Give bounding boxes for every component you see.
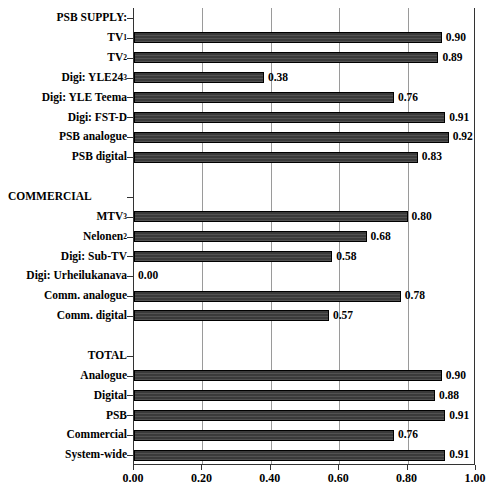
bar xyxy=(134,52,438,63)
y-axis-tick xyxy=(127,78,133,79)
horizontal-bar-chart: 0.900.890.380.760.910.920.830.800.680.58… xyxy=(0,0,489,499)
bar-value-label: 0.68 xyxy=(371,231,391,243)
y-axis-tick xyxy=(127,97,133,98)
bar-value-label: 0.00 xyxy=(138,270,158,282)
y-axis-tick xyxy=(127,237,133,238)
bar xyxy=(134,291,401,302)
bar xyxy=(134,112,445,123)
y-axis-tick xyxy=(127,38,133,39)
y-axis-tick xyxy=(127,296,133,297)
y-axis-tick xyxy=(127,415,133,416)
bar-row: 0.83 xyxy=(134,144,474,170)
bar-value-label: 0.91 xyxy=(449,449,469,461)
bar xyxy=(134,32,442,43)
bar xyxy=(134,211,408,222)
bar xyxy=(134,450,445,461)
category-label: Comm. digital xyxy=(57,303,127,329)
bar-value-label: 0.90 xyxy=(446,370,466,382)
y-axis-tick xyxy=(127,18,133,19)
x-axis-tick-label: 1.00 xyxy=(465,472,486,484)
y-axis-tick xyxy=(127,256,133,257)
bar xyxy=(134,152,418,163)
y-axis-tick xyxy=(127,197,133,198)
y-axis-tick xyxy=(127,376,133,377)
x-axis-tick-label: 0.00 xyxy=(123,472,144,484)
bar xyxy=(134,251,332,262)
y-axis-tick xyxy=(127,395,133,396)
bar xyxy=(134,370,442,381)
bar-value-label: 0.90 xyxy=(446,32,466,44)
y-axis-tick xyxy=(127,356,133,357)
bar-row: 0.91 xyxy=(134,442,474,468)
bar-value-label: 0.88 xyxy=(439,390,459,402)
x-axis-tick xyxy=(133,465,134,470)
x-axis-tick-label: 0.20 xyxy=(191,472,212,484)
x-axis-tick xyxy=(407,465,408,470)
x-axis-tick xyxy=(270,465,271,470)
y-axis-tick xyxy=(127,58,133,59)
bar-value-label: 0.91 xyxy=(449,112,469,124)
bar-value-label: 0.57 xyxy=(333,310,353,322)
bar xyxy=(134,132,449,143)
bar-row: 0.57 xyxy=(134,303,474,329)
bar xyxy=(134,410,445,421)
y-axis-tick xyxy=(127,316,133,317)
bar-value-label: 0.76 xyxy=(398,92,418,104)
y-axis-tick xyxy=(127,137,133,138)
bar-value-label: 0.91 xyxy=(449,410,469,422)
section-header-label: COMMERCIAL xyxy=(8,184,92,210)
bar-value-label: 0.92 xyxy=(453,131,473,143)
category-label: PSB digital xyxy=(72,144,127,170)
category-axis-labels: PSB SUPPLY:TV1TV2Digi: YLE243Digi: YLE T… xyxy=(0,8,133,465)
x-axis-tick-label: 0.40 xyxy=(259,472,280,484)
bar xyxy=(134,231,367,242)
bar-value-label: 0.80 xyxy=(412,211,432,223)
bar-value-label: 0.83 xyxy=(422,151,442,163)
bar xyxy=(134,430,394,441)
y-axis-tick xyxy=(127,217,133,218)
y-axis-tick xyxy=(127,455,133,456)
y-axis-tick xyxy=(127,157,133,158)
bar-value-label: 0.78 xyxy=(405,290,425,302)
x-axis-tick-label: 0.60 xyxy=(328,472,349,484)
y-axis-tick xyxy=(127,117,133,118)
category-label: System-wide xyxy=(65,442,127,468)
bar-value-label: 0.58 xyxy=(336,251,356,263)
x-axis-tick-labels: 0.000.200.400.600.801.00 xyxy=(0,472,489,494)
x-axis-tick-label: 0.80 xyxy=(396,472,417,484)
bar-value-label: 0.76 xyxy=(398,429,418,441)
bar xyxy=(134,390,435,401)
y-axis-tick xyxy=(127,435,133,436)
x-axis-tick xyxy=(201,465,202,470)
bar-value-label: 0.89 xyxy=(442,52,462,64)
bar-rows: 0.900.890.380.760.910.920.830.800.680.58… xyxy=(134,8,474,464)
bar xyxy=(134,310,329,321)
bar xyxy=(134,92,394,103)
bar xyxy=(134,72,264,83)
y-axis-tick xyxy=(127,276,133,277)
plot-area: 0.900.890.380.760.910.920.830.800.680.58… xyxy=(133,8,475,465)
x-axis-tick xyxy=(475,465,476,470)
x-axis-tick xyxy=(338,465,339,470)
bar-value-label: 0.38 xyxy=(268,72,288,84)
